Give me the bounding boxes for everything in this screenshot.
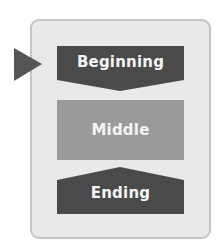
entry-arrow-icon	[14, 48, 42, 81]
beginning-label: Beginning	[57, 53, 184, 71]
ending-label: Ending	[57, 184, 184, 202]
middle-label: Middle	[57, 121, 184, 139]
